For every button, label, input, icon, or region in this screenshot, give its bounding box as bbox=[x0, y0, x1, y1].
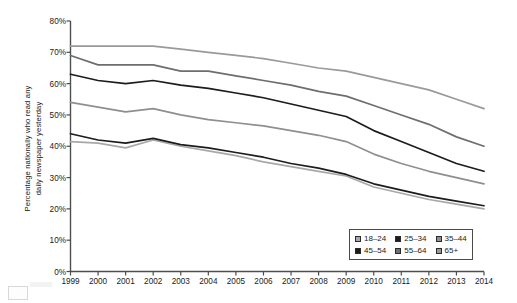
legend-label: 45–54 bbox=[364, 245, 386, 256]
legend-item: 55–64 bbox=[395, 245, 426, 256]
series-line-65+ bbox=[71, 46, 485, 109]
legend-label: 65+ bbox=[445, 245, 459, 256]
x-tick-label: 2012 bbox=[420, 277, 438, 286]
series-line-35-44 bbox=[71, 102, 485, 183]
legend-swatch-icon bbox=[436, 236, 442, 242]
x-tick-label: 2008 bbox=[309, 277, 327, 286]
chart-figure: Percentage nationally who read any daily… bbox=[0, 0, 517, 303]
legend-item: 35–44 bbox=[436, 233, 467, 244]
legend-swatch-icon bbox=[436, 248, 442, 254]
legend-item: 25–34 bbox=[395, 233, 426, 244]
x-tick-label: 2010 bbox=[365, 277, 383, 286]
x-tick-label: 2002 bbox=[144, 277, 162, 286]
x-tick-label: 2003 bbox=[172, 277, 190, 286]
x-tick-label: 2009 bbox=[337, 277, 355, 286]
legend-item: 18–24 bbox=[355, 233, 386, 244]
legend-item: 45–54 bbox=[355, 245, 386, 256]
x-tick-label: 2001 bbox=[117, 277, 135, 286]
data-series-group bbox=[71, 46, 485, 209]
x-tick-label: 2014 bbox=[475, 277, 493, 286]
x-tick-label: 2005 bbox=[227, 277, 245, 286]
legend-swatch-icon bbox=[355, 248, 361, 254]
legend-swatch-icon bbox=[395, 248, 401, 254]
page-scan-artifact bbox=[8, 286, 28, 300]
x-tick-label: 1999 bbox=[61, 277, 79, 286]
legend-swatch-icon bbox=[395, 236, 401, 242]
legend-label: 35–44 bbox=[445, 233, 467, 244]
x-tick-label: 2007 bbox=[282, 277, 300, 286]
x-tick-label: 2000 bbox=[89, 277, 107, 286]
legend-label: 18–24 bbox=[364, 233, 386, 244]
x-tick-label: 2004 bbox=[199, 277, 217, 286]
x-tick-label: 2006 bbox=[254, 277, 272, 286]
x-tick-label: 2011 bbox=[392, 277, 410, 286]
page-scan-artifact-secondary bbox=[30, 282, 52, 287]
x-tick-label: 2013 bbox=[447, 277, 465, 286]
chart-legend: 18–2425–3435–4445–5455–6465+ bbox=[349, 229, 473, 260]
legend-label: 25–34 bbox=[404, 233, 426, 244]
legend-item: 65+ bbox=[436, 245, 467, 256]
legend-swatch-icon bbox=[355, 236, 361, 242]
legend-label: 55–64 bbox=[404, 245, 426, 256]
